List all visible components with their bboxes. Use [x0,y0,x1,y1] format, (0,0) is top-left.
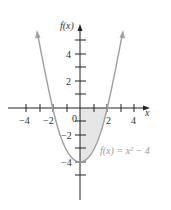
x-tick-label-4: 4 [131,115,136,126]
y-axis-label: f(x) [60,20,75,32]
x-tick-label-neg2: −2 [43,115,54,126]
y-tick-label-neg4: −4 [61,157,72,168]
origin-label: 0 [72,113,77,124]
function-label: f(x) = x² − 4 [100,145,150,157]
y-axis-arrow-icon [78,24,83,31]
function-graph: f(x) x 0 −4 −2 2 4 4 2 −2 −4 f(x) = x² −… [0,0,171,210]
x-tick-label-2: 2 [106,115,111,126]
x-tick-label-neg4: −4 [19,115,30,126]
y-tick-label-neg2: −2 [61,130,72,141]
curve-right-arrow-icon [120,30,126,39]
y-tick-label-2: 2 [66,76,71,87]
y-tick-label-4: 4 [66,49,71,60]
curve-left-arrow-icon [35,30,41,39]
x-axis-label: x [144,107,150,118]
